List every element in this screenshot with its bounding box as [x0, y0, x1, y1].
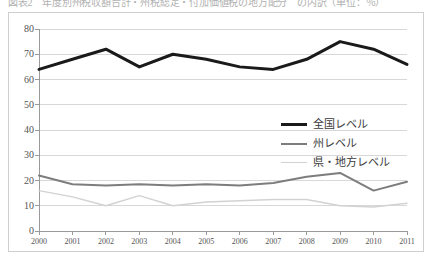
legend-line-icon-state: [281, 143, 307, 145]
legend-item-local: 県・地方レベル: [281, 153, 417, 172]
x-tick-label: 2005: [191, 237, 221, 246]
x-tick-label: 2000: [24, 237, 54, 246]
legend-item-state: 州レベル: [281, 134, 417, 153]
chart-frame: 01020304050607080 2000200120022003200420…: [8, 12, 424, 252]
y-tick-label: 60: [8, 75, 34, 85]
y-tick-label: 50: [8, 100, 34, 110]
chart-legend: 全国レベル 州レベル 県・地方レベル: [281, 115, 417, 172]
x-tick-label: 2007: [258, 237, 288, 246]
y-tick-label: 30: [8, 150, 34, 160]
legend-line-icon-local: [281, 162, 307, 163]
x-tick-label: 2010: [359, 237, 389, 246]
legend-label-local: 県・地方レベル: [313, 157, 390, 169]
y-tick-label: 20: [8, 176, 34, 186]
plot-area: 01020304050607080 2000200120022003200420…: [9, 13, 425, 253]
figure-container: 図表2 年度別州税収額合計・州税総定・付加価値税の地方配分 の内訳（単位：％） …: [0, 0, 433, 259]
y-tick-label: 0: [8, 226, 34, 236]
legend-line-icon-national: [281, 123, 307, 126]
x-tick-label: 2003: [124, 237, 154, 246]
y-tick-label: 10: [8, 201, 34, 211]
x-tick-label: 2002: [91, 237, 121, 246]
y-tick-label: 70: [8, 49, 34, 59]
figure-caption: 図表2 年度別州税収額合計・州税総定・付加価値税の地方配分 の内訳（単位：％）: [8, 0, 428, 9]
x-tick-label: 2009: [325, 237, 355, 246]
legend-label-state: 州レベル: [313, 138, 357, 150]
x-tick-label: 2008: [292, 237, 322, 246]
legend-label-national: 全国レベル: [313, 119, 368, 131]
x-tick-label: 2004: [158, 237, 188, 246]
x-tick-label: 2011: [392, 237, 422, 246]
legend-item-national: 全国レベル: [281, 115, 417, 134]
x-tick-label: 2006: [225, 237, 255, 246]
x-tick-label: 2001: [57, 237, 87, 246]
y-tick-label: 40: [8, 125, 34, 135]
y-tick-label: 80: [8, 24, 34, 34]
